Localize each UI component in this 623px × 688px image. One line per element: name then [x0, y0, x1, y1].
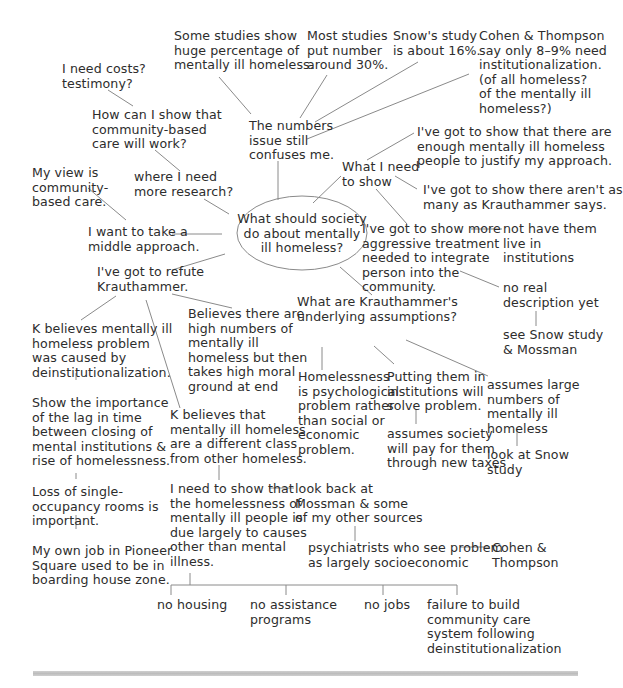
- node-look-back: look back at Mossman & some of my other …: [295, 482, 423, 526]
- node-k-assumptions: What are Krauthammer's underlying assump…: [297, 295, 458, 324]
- node-look-snow: look at Snow study: [487, 448, 569, 477]
- node-no-housing: no housing: [157, 598, 227, 613]
- node-snows-study: Snow's study is about 16%.: [393, 29, 481, 58]
- node-numbers-issue: The numbers issue still confuses me.: [249, 119, 334, 163]
- node-most-studies: Most studies put number around 30%.: [307, 29, 388, 73]
- node-where-research: where I need more research?: [134, 170, 233, 199]
- node-cohen-thompson-2: Cohen & Thompson: [492, 541, 559, 570]
- node-failure-build: failure to build community care system f…: [427, 598, 562, 656]
- node-need-costs: I need costs? testimony?: [62, 62, 146, 91]
- node-how-show: How can I show that community-based care…: [92, 108, 222, 152]
- node-not-institutions: not have them live in institutions: [503, 222, 597, 266]
- central-question-node: What should society do about mentally il…: [237, 212, 367, 256]
- node-k-different-class: K believes that mentally ill homeless ar…: [170, 408, 307, 466]
- node-no-assistance: no assistance programs: [250, 598, 337, 627]
- node-own-job: My own job in Pioneer Square used to be …: [32, 544, 172, 588]
- node-my-view: My view is community- based care.: [32, 166, 108, 210]
- node-show-lag: Show the importance of the lag in time b…: [32, 396, 170, 469]
- node-what-need-show: What I need to show: [342, 160, 419, 189]
- node-psychiatrists: psychiatrists who see problem as largely…: [308, 541, 503, 570]
- node-some-studies: Some studies show huge percentage of men…: [174, 29, 314, 73]
- node-see-snow: see Snow study & Mossman: [503, 328, 603, 357]
- node-psych-problem: Homelessness is psychological problem ra…: [298, 370, 399, 458]
- node-aggressive: I've got to show more aggressive treatme…: [362, 222, 501, 295]
- node-enough-ill: I've got to show that there are enough m…: [417, 125, 612, 169]
- node-k-believes-caused: K believes mentally ill homeless problem…: [32, 322, 172, 380]
- node-cohen-thompson: Cohen & Thompson say only 8–9% need inst…: [479, 29, 607, 117]
- node-refute-k: I've got to refute Krauthammer.: [97, 265, 204, 294]
- node-institutions-solve: Putting them in institutions will solve …: [387, 370, 486, 414]
- node-loss-rooms: Loss of single- occupancy rooms is impor…: [32, 485, 159, 529]
- node-not-as-many: I've got to show there aren't as many as…: [423, 183, 623, 212]
- node-need-show-causes: I need to show that the homelessness of …: [170, 482, 307, 570]
- node-assumes-large: assumes large numbers of mentally ill ho…: [487, 378, 580, 436]
- node-middle-approach: I want to take a middle approach.: [88, 225, 200, 254]
- node-no-jobs: no jobs: [364, 598, 410, 613]
- bottom-rule-divider: [33, 671, 578, 676]
- node-no-real-desc: no real description yet: [503, 281, 599, 310]
- node-believes-high: Believes there are high numbers of menta…: [188, 307, 307, 395]
